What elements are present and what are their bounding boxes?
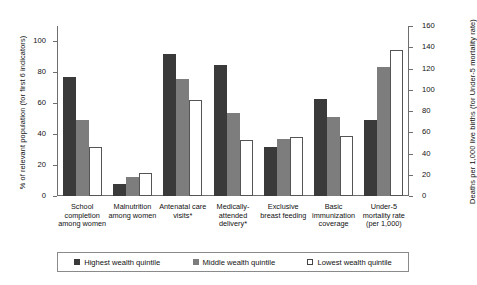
bar: [364, 120, 377, 197]
y-axis-left-tick-label: 40: [6, 130, 46, 138]
bar: [290, 137, 303, 196]
bar: [340, 136, 353, 196]
bar-group: [113, 26, 152, 196]
y-axis-left-tick: [53, 134, 57, 135]
bar-group: [163, 26, 202, 196]
bar: [113, 184, 126, 196]
bar: [327, 117, 340, 196]
bar-group: [214, 26, 253, 196]
y-axis-left-tick: [53, 41, 57, 42]
y-axis-right-tick: [409, 47, 413, 48]
legend-label: Lowest wealth quintile: [317, 258, 391, 267]
bar: [163, 54, 176, 196]
y-axis-right-tick: [409, 26, 413, 27]
chart-legend: Highest wealth quintileMiddle wealth qui…: [57, 252, 409, 272]
x-axis-category-label: Under-5mortality rate(per 1,000): [353, 203, 415, 229]
y-axis-left-line: [57, 26, 58, 196]
bar: [176, 79, 189, 196]
y-axis-right-tick-label: 0: [422, 192, 462, 200]
y-axis-left-tick-label: 60: [6, 99, 46, 107]
bar: [277, 139, 290, 196]
bar: [240, 140, 253, 196]
y-axis-left-tick: [53, 196, 57, 197]
legend-swatch-icon: [193, 259, 199, 265]
plot-area: 020406080100 020406080100120140160 Schoo…: [57, 26, 409, 196]
x-axis-category-label-line: (per 1,000): [353, 220, 415, 229]
bar: [139, 173, 152, 196]
y-axis-left-tick-label: 100: [6, 37, 46, 45]
bar: [63, 77, 76, 196]
y-axis-right-tick: [409, 132, 413, 133]
bar-group: [264, 26, 303, 196]
y-axis-left-tick-label: 0: [6, 192, 46, 200]
bar: [264, 147, 277, 196]
legend-label: Middle wealth quintile: [203, 258, 276, 267]
y-axis-right-tick: [409, 111, 413, 112]
y-axis-left-tick: [53, 165, 57, 166]
y-axis-left-title: % of relevant population (for first 6 in…: [18, 23, 27, 203]
y-axis-right-tick: [409, 154, 413, 155]
y-axis-right-tick-label: 100: [422, 86, 462, 94]
legend-swatch-icon: [74, 259, 80, 265]
y-axis-left-tick-label: 80: [6, 68, 46, 76]
y-axis-right-tick-label: 160: [422, 22, 462, 30]
bar: [89, 147, 102, 196]
bar-group: [364, 26, 403, 196]
bar: [314, 99, 327, 196]
bar: [377, 67, 390, 196]
x-axis-category-label-line: delivery*: [202, 220, 264, 229]
y-axis-right-tick-label: 20: [422, 171, 462, 179]
y-axis-right-tick-label: 80: [422, 107, 462, 115]
y-axis-right-tick-label: 140: [422, 43, 462, 51]
y-axis-left-tick: [53, 72, 57, 73]
legend-item: Middle wealth quintile: [193, 258, 276, 267]
bar: [189, 100, 202, 196]
y-axis-right-tick: [409, 90, 413, 91]
y-axis-left-tick-label: 20: [6, 161, 46, 169]
y-axis-right-tick: [409, 196, 413, 197]
y-axis-left-tick: [53, 103, 57, 104]
bar-group: [314, 26, 353, 196]
legend-label: Highest wealth quintile: [84, 258, 160, 267]
bar: [214, 65, 227, 196]
legend-item: Lowest wealth quintile: [307, 258, 391, 267]
x-axis-category-label-line: among women: [51, 220, 113, 229]
y-axis-right-title: Deaths per 1,000 live births (for Under-…: [468, 12, 477, 212]
legend-swatch-icon: [307, 259, 313, 265]
bar: [390, 50, 403, 196]
bar: [227, 113, 240, 196]
bar: [76, 120, 89, 196]
y-axis-right-tick: [409, 69, 413, 70]
y-axis-right-tick-label: 120: [422, 65, 462, 73]
bar-group: [63, 26, 102, 196]
legend-item: Highest wealth quintile: [74, 258, 160, 267]
y-axis-right-tick-label: 40: [422, 150, 462, 158]
bar: [126, 177, 139, 196]
y-axis-right-tick-label: 60: [422, 128, 462, 136]
y-axis-right-tick: [409, 175, 413, 176]
